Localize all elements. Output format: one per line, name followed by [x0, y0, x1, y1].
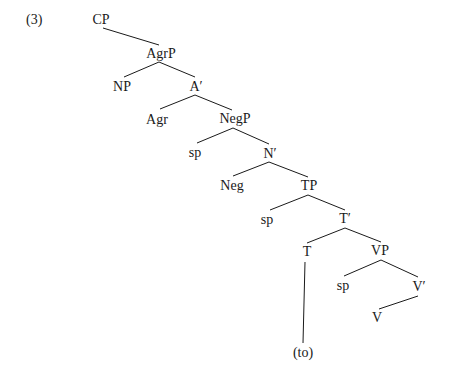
- node-n-bar: N′: [263, 147, 276, 161]
- tree-edge: [308, 195, 345, 210]
- tree-edge: [124, 62, 159, 77]
- node-t-bar: T′: [339, 212, 351, 226]
- node-spec-vp: sp: [337, 279, 349, 293]
- node-negp: NegP: [219, 112, 250, 126]
- node-cp: CP: [92, 13, 109, 27]
- tree-edge: [270, 195, 308, 210]
- node-vp: VP: [371, 244, 389, 258]
- tree-edge: [269, 162, 308, 177]
- syntax-tree-diagram: (3) CP AgrP NP A′ Agr NegP sp N′ Neg TP …: [0, 0, 449, 377]
- node-to: (to): [293, 346, 313, 360]
- example-number: (3): [26, 13, 42, 27]
- tree-edge: [160, 95, 195, 109]
- tree-edge: [233, 128, 269, 144]
- tree-edge: [303, 262, 305, 343]
- node-agrp: AgrP: [146, 47, 176, 61]
- node-a-bar: A′: [189, 80, 202, 94]
- node-t: T: [303, 245, 312, 259]
- tree-edge: [381, 260, 418, 277]
- tree-edge: [197, 128, 233, 143]
- node-agr: Agr: [146, 113, 168, 127]
- node-v-bar: V′: [412, 280, 425, 294]
- node-np: NP: [113, 80, 131, 94]
- tree-edge: [307, 228, 345, 243]
- tree-edge: [379, 296, 418, 309]
- node-spec-negp: sp: [189, 146, 201, 160]
- tree-edge: [344, 260, 381, 276]
- tree-edge: [233, 162, 269, 176]
- tree-edge: [103, 28, 159, 45]
- tree-edge: [195, 95, 232, 110]
- node-v: V: [372, 311, 382, 325]
- node-spec-tp: sp: [261, 213, 273, 227]
- node-tp: TP: [301, 179, 317, 193]
- tree-edge: [345, 228, 381, 242]
- node-neg: Neg: [220, 179, 243, 193]
- tree-edge: [159, 62, 195, 77]
